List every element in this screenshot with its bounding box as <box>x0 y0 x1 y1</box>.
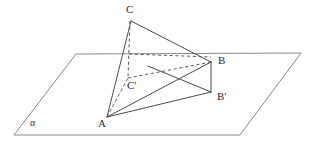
geometry-figure: CBC′B′A α <box>0 0 313 149</box>
vertex-label-Cp: C′ <box>127 79 137 91</box>
edge-A-Bprime <box>107 92 211 117</box>
edge-A-C <box>107 21 131 117</box>
vertex-label-A: A <box>98 117 106 129</box>
geometry-canvas: CBC′B′A α <box>0 0 313 149</box>
vertex-label-B: B <box>218 54 225 66</box>
vertex-label-Bp: B′ <box>217 90 227 102</box>
plane-alpha-label: α <box>30 117 36 128</box>
edge-Cprime-B <box>128 62 211 78</box>
plane-alpha <box>14 53 301 135</box>
edge-Bprime-inner <box>148 66 211 92</box>
vertex-labels-group: CBC′B′A <box>98 3 227 129</box>
visible-edges-group <box>107 21 211 117</box>
vertex-label-C: C <box>126 3 133 15</box>
